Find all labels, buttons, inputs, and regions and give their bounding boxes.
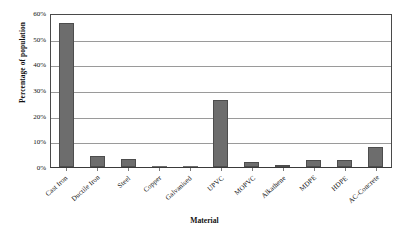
y-tick-label: 0% (20, 164, 46, 172)
bar-slot (298, 15, 329, 167)
bar-slot (51, 15, 82, 167)
chart-figure: Percentage of population 0%10%20%30%40%5… (0, 0, 409, 239)
x-tick-mark (190, 168, 191, 171)
bar-slot (236, 15, 267, 167)
x-tick-mark (66, 168, 67, 171)
x-tick-mark (221, 168, 222, 171)
x-tick-label: Alkathene (260, 174, 287, 200)
x-tick-mark (252, 168, 253, 171)
x-tick-label: MOPVC (233, 174, 257, 197)
bar (244, 162, 259, 167)
bar (306, 160, 321, 167)
bar (213, 100, 228, 167)
bar (275, 165, 290, 167)
y-axis-tick-labels: 0%10%20%30%40%50%60% (20, 0, 48, 239)
x-tick-label: MDPE (298, 174, 318, 193)
x-tick-label: HDPE (330, 174, 349, 192)
bar-slot (206, 15, 237, 167)
bar-slot (267, 15, 298, 167)
y-tick-label: 60% (20, 10, 46, 18)
bar-series (51, 15, 391, 167)
bar-slot (175, 15, 206, 167)
bar (90, 156, 105, 167)
x-axis-tick-labels: Cast IronDuctile IronSteelCopperGalvanis… (50, 172, 392, 212)
plot-area (50, 14, 392, 168)
bar-slot (329, 15, 360, 167)
x-tick-mark (345, 168, 346, 171)
bar (183, 166, 198, 167)
y-tick-label: 20% (20, 113, 46, 121)
x-tick-label: Steel (116, 174, 132, 190)
x-tick-mark (128, 168, 129, 171)
bar (368, 147, 383, 167)
x-tick-label: Cast Iron (44, 174, 69, 198)
y-tick-label: 50% (20, 36, 46, 44)
bar (121, 159, 136, 167)
y-tick-label: 10% (20, 138, 46, 146)
bar-slot (360, 15, 391, 167)
x-tick-mark (159, 168, 160, 171)
x-tick-label: UPVC (206, 174, 226, 193)
bar (59, 23, 74, 167)
x-tick-mark (283, 168, 284, 171)
x-tick-label: Ductile Iron (70, 174, 102, 204)
x-tick-label: AC-Concrete (347, 174, 381, 206)
bar-slot (113, 15, 144, 167)
bar (152, 166, 167, 167)
bar-slot (144, 15, 175, 167)
y-tick-label: 40% (20, 61, 46, 69)
x-tick-mark (314, 168, 315, 171)
x-tick-mark (376, 168, 377, 171)
x-axis-title: Material (0, 216, 409, 225)
x-tick-mark (97, 168, 98, 171)
y-tick-label: 30% (20, 87, 46, 95)
bar (337, 160, 352, 167)
x-tick-label: Galvanised (164, 174, 194, 202)
bar-slot (82, 15, 113, 167)
x-tick-label: Copper (142, 174, 163, 194)
